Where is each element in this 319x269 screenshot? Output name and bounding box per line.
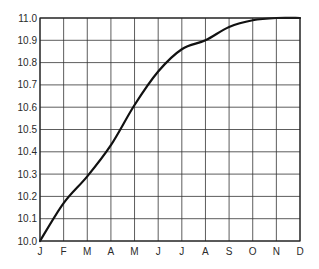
y-axis-tick-labels: 10.010.110.210.310.410.510.610.710.810.9… (18, 13, 38, 247)
grid-lines (40, 18, 300, 241)
y-tick-label: 10.9 (18, 35, 38, 46)
y-tick-label: 10.4 (18, 146, 38, 157)
x-tick-label: O (249, 246, 257, 257)
x-axis-tick-labels: JFMAMJJASOND (38, 246, 304, 257)
x-tick-label: S (226, 246, 233, 257)
y-tick-label: 10.5 (18, 124, 38, 135)
x-tick-label: F (61, 246, 67, 257)
x-tick-label: J (38, 246, 43, 257)
x-tick-label: J (179, 246, 184, 257)
x-tick-label: M (130, 246, 138, 257)
y-tick-label: 10.2 (18, 191, 38, 202)
y-tick-label: 10.1 (18, 213, 38, 224)
y-tick-label: 10.3 (18, 169, 38, 180)
x-tick-label: M (83, 246, 91, 257)
x-tick-label: A (108, 246, 115, 257)
y-tick-label: 11.0 (18, 13, 37, 24)
x-tick-label: J (156, 246, 161, 257)
y-tick-label: 10.6 (18, 102, 38, 113)
y-tick-label: 10.7 (18, 79, 38, 90)
x-tick-label: D (296, 246, 303, 257)
x-tick-label: N (273, 246, 280, 257)
x-tick-label: A (202, 246, 209, 257)
line-chart: 10.010.110.210.310.410.510.610.710.810.9… (0, 0, 319, 269)
y-tick-label: 10.8 (18, 57, 38, 68)
y-tick-label: 10.0 (18, 236, 38, 247)
